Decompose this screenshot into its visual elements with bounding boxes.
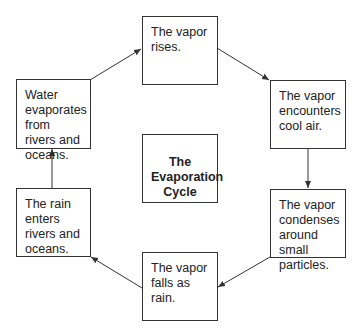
step-vapor-falls: The vapor falls as rain. bbox=[142, 252, 218, 321]
step-rain-enters: The rain enters rivers and oceans. bbox=[16, 188, 91, 257]
arrow-rises-to-encounters bbox=[217, 48, 269, 80]
title-line-1: The bbox=[151, 155, 209, 170]
step-vapor-encounters: The vapor encounters cool air. bbox=[270, 80, 346, 149]
step-text: The rain enters rivers and oceans. bbox=[25, 197, 80, 256]
step-vapor-condenses: The vapor condenses around small particl… bbox=[270, 189, 346, 258]
step-water-evaporates: Water evaporates from rivers and oceans. bbox=[16, 79, 91, 149]
title-line-2: Evaporation bbox=[151, 170, 209, 185]
diagram-title: The Evaporation Cycle bbox=[142, 134, 218, 203]
step-vapor-rises: The vapor rises. bbox=[142, 16, 218, 85]
step-text: The vapor encounters cool air. bbox=[279, 89, 341, 133]
step-text: The vapor rises. bbox=[151, 25, 207, 54]
step-text: The vapor falls as rain. bbox=[151, 261, 207, 305]
arrow-evaporates-to-rises bbox=[90, 49, 141, 80]
arrow-falls-to-enters bbox=[91, 257, 142, 288]
title-line-3: Cycle bbox=[151, 185, 209, 200]
arrow-condenses-to-falls bbox=[218, 257, 270, 287]
